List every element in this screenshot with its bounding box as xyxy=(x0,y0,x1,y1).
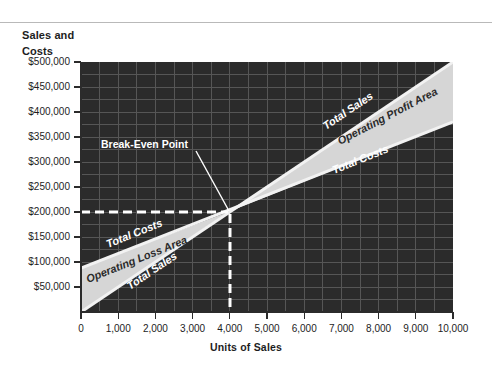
y-tick-label-200000: $200,000 xyxy=(4,206,70,217)
y-tick-label-350000: $350,000 xyxy=(4,131,70,142)
plot-area: Break-Even Point Total Costs Operating L… xyxy=(0,0,492,375)
y-tick-label-450000: $450,000 xyxy=(4,81,70,92)
y-tick-label-300000: $300,000 xyxy=(4,156,70,167)
y-tick-label-100000: $100,000 xyxy=(4,256,70,267)
y-tick-label-500000: $500,000 xyxy=(4,56,70,67)
x-axis-title: Units of Sales xyxy=(0,341,492,353)
y-tick-label-150000: $150,000 xyxy=(4,231,70,242)
y-tick-label-50000: $50,000 xyxy=(4,281,70,292)
annotation-break-even-point: Break-Even Point xyxy=(101,138,188,150)
break-even-chart-figure: Sales and Costs xyxy=(0,0,492,375)
y-tick-label-250000: $250,000 xyxy=(4,181,70,192)
x-axis-ticks xyxy=(81,312,453,319)
y-axis-ticks xyxy=(74,62,81,287)
y-tick-label-400000: $400,000 xyxy=(4,106,70,117)
x-tick-label-10000: 10,000 xyxy=(428,323,478,334)
